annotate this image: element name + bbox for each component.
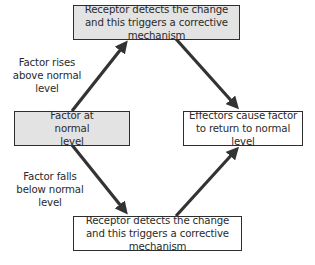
bottom-receptor-box: Receptor detects the change and this tri… xyxy=(73,216,242,251)
effectors-text: Effectors cause factor to return to norm… xyxy=(187,109,299,148)
arrow-top-to-right xyxy=(176,39,236,106)
effectors-box: Effectors cause factor to return to norm… xyxy=(183,111,303,146)
rises-label: Factor rises above normal level xyxy=(10,56,84,95)
falls-label: Factor falls below normal level xyxy=(13,170,87,209)
bottom-receptor-text: Receptor detects the change and this tri… xyxy=(77,214,238,253)
feedback-diagram: Receptor detects the change and this tri… xyxy=(0,0,315,265)
normal-level-box: Factor at normal level xyxy=(14,111,130,146)
top-receptor-text: Receptor detects the change and this tri… xyxy=(77,3,236,42)
normal-level-text: Factor at normal level xyxy=(42,109,102,148)
arrow-bottom-to-right xyxy=(176,150,236,216)
top-receptor-box: Receptor detects the change and this tri… xyxy=(73,5,240,40)
